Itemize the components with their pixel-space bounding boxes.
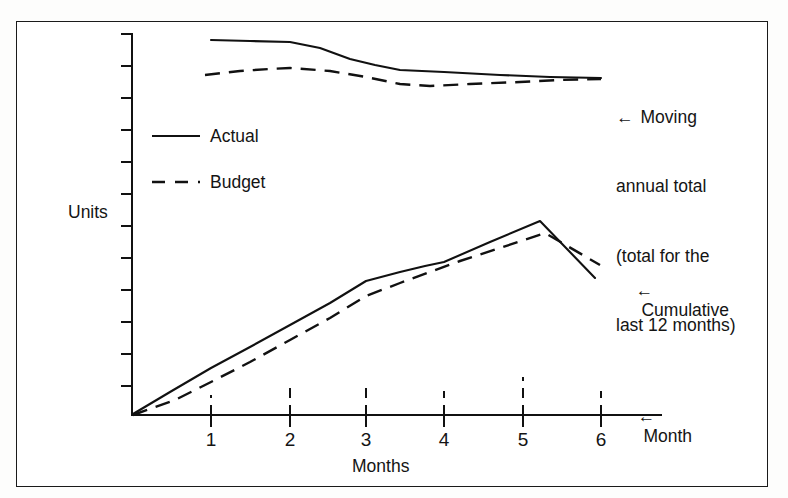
mat-actual-line	[211, 40, 601, 78]
left-arrow-icon: ←	[635, 280, 653, 300]
x-tick-label-1: 1	[196, 429, 226, 451]
x-tick-label-3: 3	[351, 429, 381, 451]
callout-moving-annual-total-line-2: annual total	[616, 175, 776, 198]
x-tick-label-2: 2	[275, 429, 305, 451]
x-tick-label-6: 6	[586, 429, 616, 451]
callout-month: ← Month	[618, 385, 692, 468]
x-tick-label-5: 5	[508, 429, 538, 451]
callout-moving-annual-total-line-1: Moving	[641, 106, 697, 129]
legend-label-budget: Budget	[210, 172, 265, 193]
chart-figure: Units Months 1 2 3 4 5 6 Actual Budget ←…	[0, 0, 788, 498]
left-arrow-icon: ←	[637, 406, 655, 426]
legend-label-actual: Actual	[210, 126, 259, 147]
y-axis-label: Units	[68, 202, 108, 223]
callout-month-label: Month	[643, 426, 692, 446]
callout-cumulative-label: Cumulative	[641, 300, 729, 320]
callout-cumulative: ← Cumulative	[616, 259, 729, 342]
y-axis-ticks	[121, 34, 132, 386]
x-axis-label: Months	[352, 456, 409, 477]
x-axis-ticks	[211, 415, 601, 427]
month-separator-ticks	[211, 377, 601, 415]
left-arrow-icon: ←	[616, 106, 634, 129]
x-tick-label-4: 4	[429, 429, 459, 451]
cumulative-budget-line	[133, 233, 600, 415]
